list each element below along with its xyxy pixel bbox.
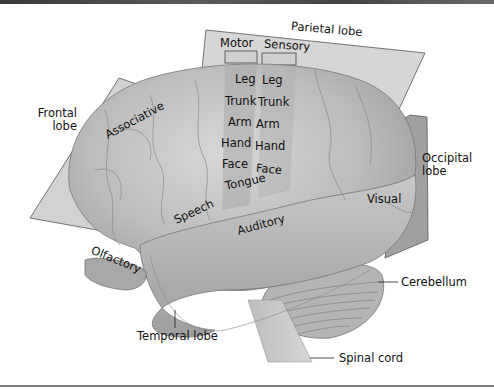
occipital-lobe-label: Occipital lobe bbox=[422, 152, 472, 177]
sensory-face: Face bbox=[255, 162, 282, 177]
cerebellum-label: Cerebellum bbox=[401, 276, 467, 289]
motor-trunk: Trunk bbox=[225, 95, 256, 108]
occipital-lobe-text: Occipital lobe bbox=[422, 152, 472, 177]
sensory-trunk: Trunk bbox=[258, 96, 289, 109]
sensory-label: Sensory bbox=[264, 37, 311, 53]
spinal-cord-label: Spinal cord bbox=[339, 352, 403, 365]
motor-box bbox=[225, 51, 257, 63]
sensory-leg: Leg bbox=[262, 74, 283, 87]
sensory-arm: Arm bbox=[256, 118, 280, 131]
brain-illustration bbox=[0, 0, 494, 390]
motor-arm: Arm bbox=[228, 116, 252, 129]
frontal-lobe-label: Frontal lobe bbox=[37, 107, 77, 132]
frontal-lobe-text: Frontal lobe bbox=[37, 107, 77, 132]
temporal-lobe-label: Temporal lobe bbox=[137, 330, 218, 343]
sensory-hand: Hand bbox=[255, 140, 285, 153]
sensory-box bbox=[262, 53, 296, 65]
bottom-rule bbox=[0, 385, 494, 387]
visual-label: Visual bbox=[367, 193, 401, 206]
motor-hand: Hand bbox=[221, 137, 251, 150]
motor-face: Face bbox=[222, 158, 248, 171]
motor-leg: Leg bbox=[235, 73, 256, 86]
motor-label: Motor bbox=[220, 37, 253, 50]
